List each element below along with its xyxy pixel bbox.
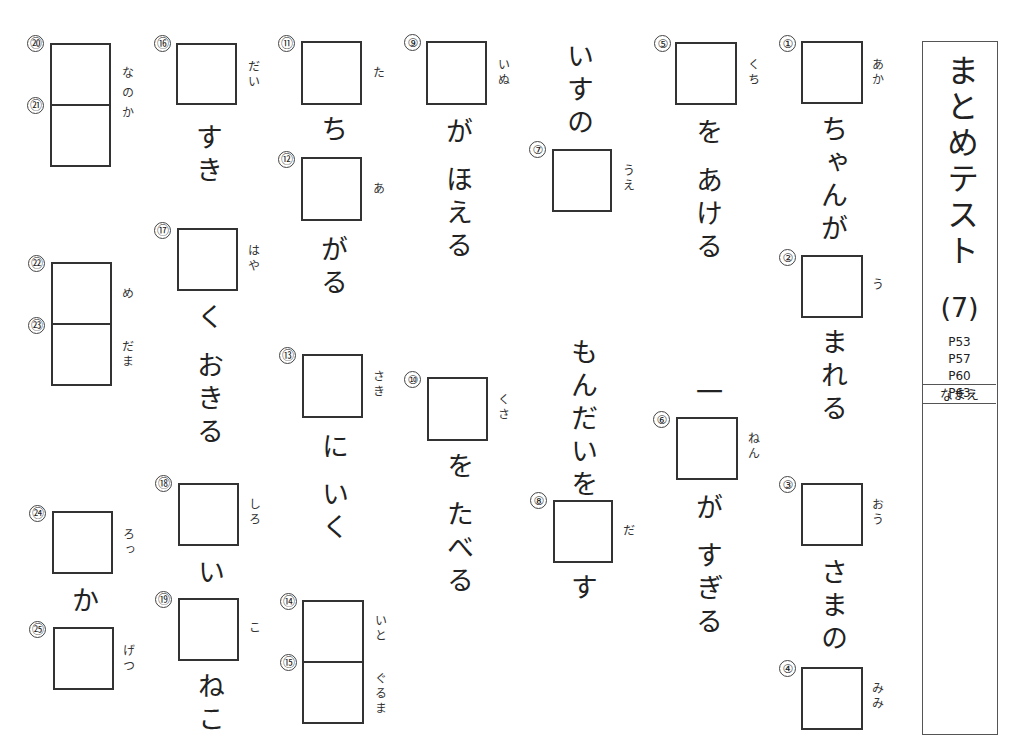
furigana: ぐるま bbox=[372, 672, 386, 717]
page-ref: P57 bbox=[923, 351, 996, 368]
answer-box-1[interactable] bbox=[801, 41, 863, 104]
question-number: ⑳ bbox=[27, 35, 44, 52]
question-number: ⑯ bbox=[154, 35, 171, 52]
answer-box-10[interactable] bbox=[427, 377, 488, 441]
answer-box-11[interactable] bbox=[301, 41, 362, 105]
sentence-text: を あける bbox=[692, 118, 722, 265]
answer-box-22[interactable] bbox=[51, 262, 112, 325]
page-ref: P53 bbox=[923, 334, 996, 351]
question-number: ㉕ bbox=[29, 621, 46, 638]
question-number: ⑦ bbox=[529, 141, 546, 158]
furigana: ろっ bbox=[120, 528, 134, 558]
furigana: おう bbox=[869, 498, 883, 528]
sentence-text: が ほえる bbox=[442, 117, 472, 264]
furigana: なのか bbox=[119, 66, 133, 126]
sentence-text: が すぎる bbox=[692, 493, 722, 640]
answer-box-9[interactable] bbox=[426, 41, 487, 105]
question-number: ⑪ bbox=[278, 35, 295, 52]
question-number: ⑥ bbox=[653, 411, 670, 428]
question-number: ⑭ bbox=[280, 593, 297, 610]
answer-box-3[interactable] bbox=[801, 483, 863, 546]
sentence-text: がる bbox=[317, 235, 347, 301]
question-number: ⑲ bbox=[155, 591, 172, 608]
sentence-text: か bbox=[68, 586, 98, 619]
furigana: うえ bbox=[620, 164, 634, 194]
question-number: ⑧ bbox=[530, 492, 547, 509]
sentence-text: 一 bbox=[692, 378, 722, 411]
name-label: なまえ bbox=[923, 384, 996, 404]
furigana: う bbox=[869, 278, 883, 293]
furigana: いぬ bbox=[495, 58, 509, 88]
answer-box-19[interactable] bbox=[178, 598, 239, 661]
answer-box-13[interactable] bbox=[302, 354, 363, 418]
question-number: ⑫ bbox=[278, 151, 295, 168]
furigana: はや bbox=[245, 244, 259, 274]
name-field[interactable] bbox=[923, 404, 996, 732]
answer-box-12[interactable] bbox=[301, 157, 362, 221]
question-number: ⑨ bbox=[404, 34, 421, 51]
sentence-text: すき bbox=[192, 123, 222, 189]
sentence-text: ち bbox=[317, 115, 347, 148]
furigana: だ bbox=[620, 524, 634, 539]
sentence-text: もんだいを bbox=[567, 338, 597, 503]
question-number: ① bbox=[779, 35, 796, 52]
question-number: ⑬ bbox=[279, 347, 296, 364]
furigana: あか bbox=[869, 58, 883, 88]
page-ref: P60 bbox=[923, 368, 996, 385]
furigana: あ bbox=[370, 182, 384, 197]
sentence-text: い bbox=[194, 558, 224, 591]
answer-box-24[interactable] bbox=[52, 511, 113, 574]
sentence-text: く おきる bbox=[193, 303, 223, 450]
question-number: ④ bbox=[779, 660, 796, 677]
furigana: げつ bbox=[120, 644, 134, 674]
question-number: ⑰ bbox=[154, 222, 171, 239]
answer-box-18[interactable] bbox=[178, 483, 239, 546]
answer-box-15[interactable] bbox=[302, 661, 364, 724]
answer-box-20[interactable] bbox=[50, 43, 111, 106]
answer-box-21[interactable] bbox=[50, 104, 111, 167]
question-number: ② bbox=[779, 249, 796, 266]
answer-box-6[interactable] bbox=[676, 417, 738, 480]
answer-box-25[interactable] bbox=[53, 627, 114, 690]
question-number: ㉒ bbox=[28, 255, 45, 272]
answer-box-16[interactable] bbox=[176, 43, 237, 105]
answer-box-8[interactable] bbox=[553, 500, 613, 563]
furigana: くち bbox=[745, 58, 759, 88]
sentence-text: に いく bbox=[318, 432, 348, 546]
question-number: ⑩ bbox=[404, 371, 421, 388]
furigana: だま bbox=[119, 340, 133, 370]
question-number: ㉔ bbox=[29, 505, 46, 522]
sentence-text: いすの bbox=[563, 42, 593, 141]
sentence-text: ねこ bbox=[194, 672, 224, 738]
test-number: (7) bbox=[923, 292, 996, 323]
sentence-text: まれる bbox=[817, 328, 847, 427]
question-number: ③ bbox=[779, 476, 796, 493]
sentence-text: を たべる bbox=[443, 452, 473, 599]
furigana: みみ bbox=[869, 682, 883, 712]
sentence-text: す bbox=[567, 573, 597, 606]
answer-box-2[interactable] bbox=[801, 255, 863, 318]
furigana: くさ bbox=[495, 393, 509, 423]
answer-box-23[interactable] bbox=[51, 323, 112, 386]
question-number: ⑱ bbox=[155, 475, 172, 492]
answer-box-17[interactable] bbox=[177, 228, 238, 291]
answer-box-4[interactable] bbox=[801, 667, 863, 730]
furigana: め bbox=[119, 287, 133, 302]
furigana: ねん bbox=[745, 432, 759, 462]
furigana: いと bbox=[372, 614, 386, 644]
furigana: さき bbox=[370, 370, 384, 400]
answer-box-14[interactable] bbox=[302, 600, 364, 663]
furigana: だい bbox=[245, 60, 259, 90]
furigana: た bbox=[370, 66, 384, 81]
question-number: ⑮ bbox=[280, 654, 297, 671]
furigana: しろ bbox=[246, 498, 260, 528]
test-title: まとめテスト bbox=[923, 54, 996, 270]
furigana: こ bbox=[246, 621, 260, 636]
answer-box-5[interactable] bbox=[675, 42, 737, 105]
title-panel: まとめテスト (7) P53 P57 P60 P63 なまえ bbox=[922, 41, 998, 735]
answer-box-7[interactable] bbox=[552, 149, 612, 212]
sentence-text: ちゃんが bbox=[817, 115, 847, 247]
question-number: ㉑ bbox=[27, 97, 44, 114]
sentence-text: さまの bbox=[817, 558, 847, 657]
question-number: ⑤ bbox=[654, 35, 671, 52]
